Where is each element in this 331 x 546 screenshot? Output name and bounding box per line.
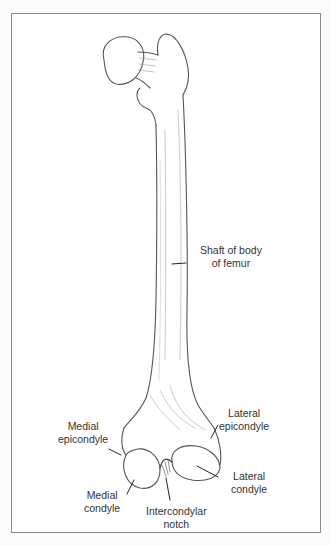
label-lateral-epicondyle: Lateral epicondyle	[219, 407, 269, 433]
medial-condyle-shape	[124, 449, 160, 488]
greater-trochanter	[157, 34, 188, 95]
label-medial-epicondyle: Medial epicondyle	[58, 420, 108, 446]
lateral-condyle-shape	[172, 446, 220, 481]
femoral-head	[103, 37, 144, 85]
label-intercondylar-notch: Intercondylar notch	[146, 505, 207, 531]
lesser-trochanter	[137, 88, 156, 125]
label-medial-condyle: Medial condyle	[84, 489, 120, 515]
femur-drawing	[0, 0, 331, 546]
medial-epicondyle-edge	[122, 428, 126, 455]
shaft-left-edge	[124, 125, 157, 428]
label-lateral-condyle: Lateral condyle	[231, 470, 267, 496]
label-shaft-of-femur: Shaft of body of femur	[200, 244, 262, 270]
